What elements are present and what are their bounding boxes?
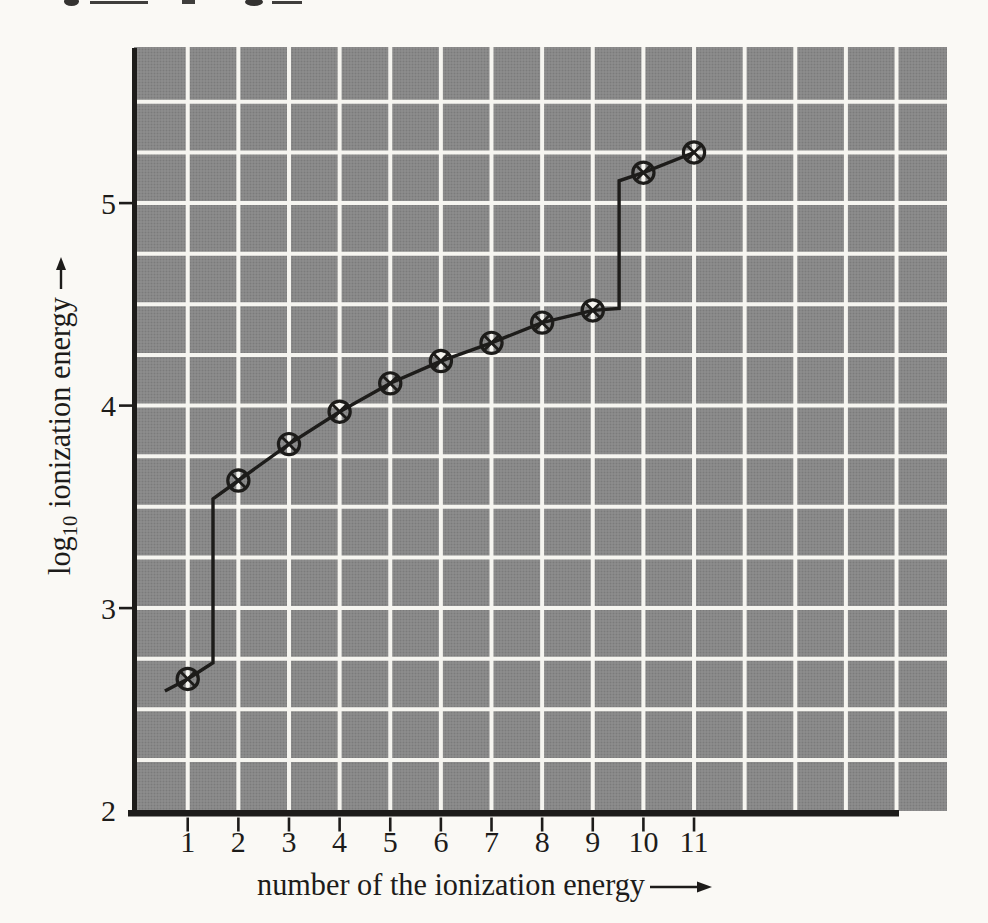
y-axis-title-text: log10 ionization energy — [42, 297, 82, 575]
x-tick-label: 2 — [231, 825, 246, 858]
y-tick-label: 3 — [101, 592, 116, 625]
x-tick-label: 3 — [281, 825, 296, 858]
y-axis-label-sub10: 10 — [58, 516, 82, 537]
x-tick-label: 1 — [180, 825, 195, 858]
x-tick-label: 9 — [585, 825, 600, 858]
x-axis-title-text: number of the ionization energy — [257, 867, 645, 902]
x-tick-label: 5 — [383, 825, 398, 858]
x-axis-line — [128, 810, 899, 817]
y-axis-label-log: log — [42, 536, 77, 575]
ionization-energy-chart: 12345678910112345 log10 ionization energ… — [0, 0, 988, 923]
right-arrow-icon — [650, 882, 712, 893]
x-tick-label: 11 — [680, 825, 709, 858]
up-arrow-icon — [56, 257, 66, 289]
y-tick-label: 4 — [101, 389, 116, 422]
y-tick-label: 5 — [101, 187, 116, 220]
page: { "figure": { "y_axis": { "label_pre": "… — [0, 0, 988, 923]
y-axis-line — [132, 48, 137, 816]
y-axis-title: log10 ionization energy — [42, 257, 82, 575]
x-tick-label: 8 — [535, 825, 550, 858]
x-tick-label: 10 — [628, 825, 658, 858]
y-axis-label-rest: ionization energy — [42, 297, 77, 516]
y-tick-label: 2 — [101, 794, 116, 827]
x-axis-title: number of the ionization energy — [257, 867, 712, 902]
x-tick-label: 4 — [332, 825, 347, 858]
x-tick-label: 7 — [484, 825, 499, 858]
x-tick-label: 6 — [433, 825, 448, 858]
